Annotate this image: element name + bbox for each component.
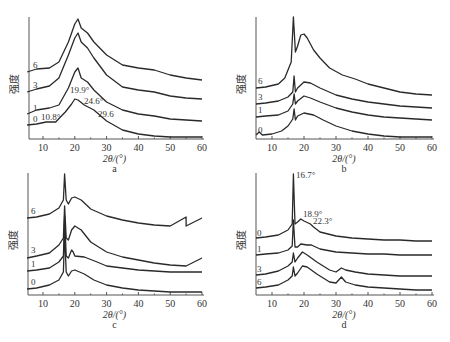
x-tick-label: 20 [70,142,80,153]
x-tick-label: 50 [165,142,175,153]
series-label: 6 [33,60,38,70]
panel-d: 1020304050602θ/(°)d强度013616.7°18.9°22.3° [235,170,437,330]
series-curve-6 [256,17,432,95]
figure: 1020304050602θ/(°)a强度631010.8°19.9°24.6°… [0,0,450,342]
series-label: 0 [258,125,263,135]
series-label: 0 [31,277,36,287]
series-label: 3 [258,92,263,102]
x-tick-label: 10 [38,142,48,153]
peak-annotation: 19.9° [70,85,90,95]
panel-caption: a [112,163,117,174]
x-tick-label: 60 [197,142,207,153]
series-curve-0 [27,232,202,292]
y-axis-label: 强度 [8,74,20,94]
x-tick-label: 20 [70,298,80,309]
x-tick-label: 20 [299,142,309,153]
peak-annotation: 29.6 [98,109,114,119]
series-label: 0 [257,228,262,238]
x-tick-label: 30 [331,142,341,153]
peak-annotation: 16.7° [296,170,316,180]
series-label: 3 [31,245,36,255]
x-tick-label: 60 [197,298,207,309]
x-tick-label: 40 [363,142,373,153]
x-tick-label: 40 [363,298,373,309]
series-curve-1 [27,216,202,272]
x-tick-label: 10 [267,142,277,153]
y-axis-label: 强度 [7,230,19,250]
series-label: 3 [257,264,262,274]
series-label: 1 [31,259,36,269]
y-axis-label: 强度 [235,74,247,94]
x-tick-label: 20 [299,298,309,309]
x-tick-label: 40 [133,298,143,309]
series-curve-0 [256,174,432,241]
x-tick-label: 30 [331,298,341,309]
peak-annotation: 24.6° [84,96,104,106]
x-tick-label: 40 [133,142,143,153]
panel-b: 1020304050602θ/(°)b强度6310 [235,17,437,174]
x-tick-label: 60 [427,298,437,309]
panel-caption: d [342,319,347,330]
x-tick-label: 10 [38,298,48,309]
panel-a: 1020304050602θ/(°)a强度631010.8°19.9°24.6°… [8,17,207,174]
series-label: 1 [257,244,262,254]
x-tick-label: 30 [102,142,112,153]
series-curve-3 [27,206,202,266]
series-label: 1 [33,103,38,113]
panel-caption: c [112,319,117,330]
x-tick-label: 60 [427,142,437,153]
series-curve-6 [27,174,202,226]
series-curve-6 [27,19,202,80]
y-axis-label: 强度 [235,230,247,250]
x-tick-label: 50 [395,142,405,153]
x-tick-label: 30 [102,298,112,309]
series-label: 6 [257,277,262,287]
peak-annotation: 10.8° [41,112,61,122]
series-label: 3 [33,80,38,90]
series-label: 6 [31,206,36,216]
panel-c: 1020304050602θ/(°)c强度6310 [7,173,207,330]
peak-annotation: 22.3° [313,216,333,226]
x-tick-label: 50 [165,298,175,309]
x-tick-label: 50 [395,298,405,309]
panel-caption: b [342,163,347,174]
series-label: 1 [258,105,263,115]
x-tick-label: 10 [267,298,277,309]
series-label: 6 [258,76,263,86]
series-label: 0 [33,114,38,124]
